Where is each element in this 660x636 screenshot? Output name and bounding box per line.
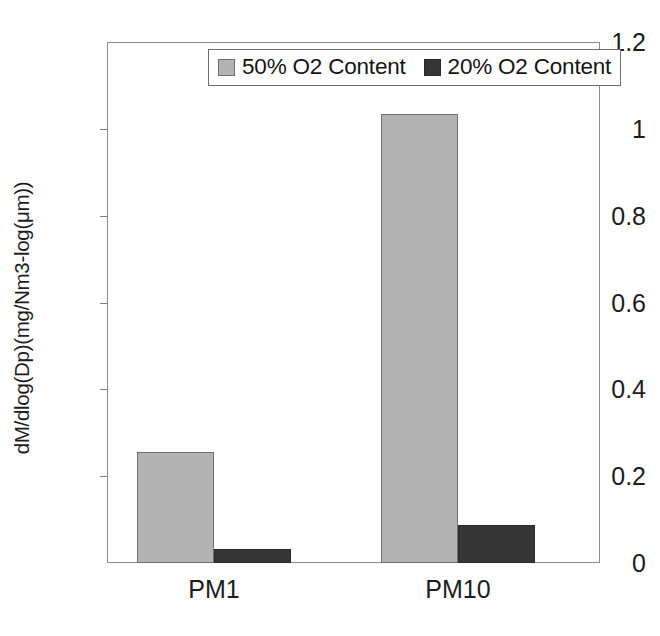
bar [381,114,458,563]
y-axis-title: dM/dlog(Dp)(mg/Nm3-log(μm)) [0,0,44,636]
legend-entry: 50% O2 Content [218,54,406,80]
bar [214,549,291,563]
legend-swatch-light-gray [218,59,235,76]
legend-entry: 20% O2 Content [424,54,612,80]
x-axis-tick-label: PM1 [188,575,239,604]
plot-area [107,42,600,563]
legend-label: 50% O2 Content [242,54,406,80]
chart-legend: 50% O2 Content20% O2 Content [208,49,621,86]
bar [458,525,535,563]
bar-chart-figure: dM/dlog(Dp)(mg/Nm3-log(μm)) 00.20.40.60.… [0,0,660,636]
x-axis-tick-label: PM10 [425,575,490,604]
legend-swatch-dark-gray [424,59,441,76]
bar [137,452,214,563]
legend-label: 20% O2 Content [448,54,612,80]
